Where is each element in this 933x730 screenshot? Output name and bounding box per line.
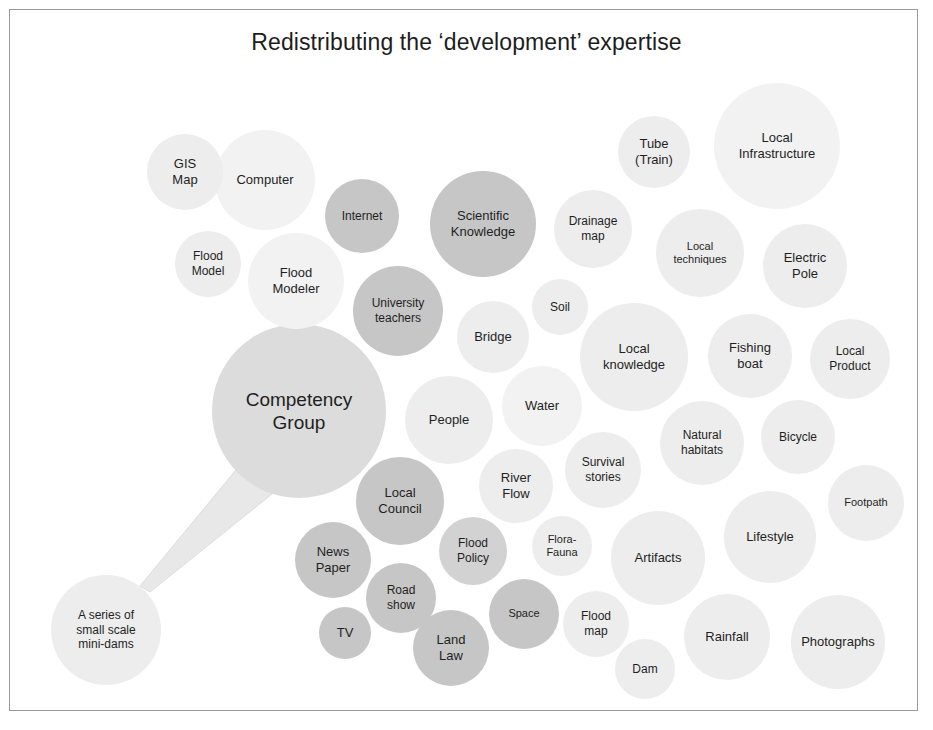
bubble-computer[interactable]: Computer: [215, 130, 315, 230]
bubble-dam[interactable]: Dam: [615, 639, 675, 699]
bubble-label: Natural habitats: [662, 428, 742, 457]
bubble-label: Local Council: [358, 485, 442, 517]
bubble-local-knowledge[interactable]: Local knowledge: [580, 303, 688, 411]
bubble-label: Fishing boat: [710, 340, 790, 372]
bubble-scientific-knowledge[interactable]: Scientific Knowledge: [430, 171, 536, 277]
bubble-natural-habitats[interactable]: Natural habitats: [660, 401, 744, 485]
bubble-label: Dam: [617, 662, 673, 677]
bubble-electric-pole[interactable]: Electric Pole: [763, 224, 847, 308]
bubble-flood-map[interactable]: Flood map: [563, 591, 629, 657]
bubble-local-infrastructure[interactable]: Local Infrastructure: [714, 83, 840, 209]
bubble-label: People: [407, 412, 491, 428]
bubble-lifestyle[interactable]: Lifestyle: [724, 491, 816, 583]
bubble-label: Local techniques: [658, 240, 742, 267]
bubble-label: Rainfall: [686, 629, 768, 645]
bubble-space[interactable]: Space: [489, 579, 559, 649]
bubble-label: River Flow: [481, 470, 551, 502]
bubble-people[interactable]: People: [405, 376, 493, 464]
bubble-label: Road show: [368, 583, 434, 612]
bubble-label: Local Product: [812, 344, 888, 373]
bubble-fishing-boat[interactable]: Fishing boat: [708, 314, 792, 398]
bubble-label: Artifacts: [613, 550, 703, 566]
bubble-label: Tube (Train): [620, 136, 688, 168]
bubble-label: Local knowledge: [582, 341, 686, 373]
bubble-label: Bicycle: [763, 430, 833, 445]
bubble-news-paper[interactable]: News Paper: [295, 522, 371, 598]
diagram-canvas: Redistributing the ‘development’ experti…: [0, 0, 933, 730]
bubble-label: Competency Group: [214, 388, 384, 434]
bubble-label: University teachers: [355, 296, 441, 325]
bubble-label: Lifestyle: [726, 529, 814, 545]
bubble-label: News Paper: [297, 544, 369, 576]
bubble-a-series-of-small-scale-mini-dams[interactable]: A series of small scale mini-dams: [51, 575, 161, 685]
bubble-label: GIS Map: [149, 156, 221, 188]
bubble-bridge[interactable]: Bridge: [457, 301, 529, 373]
bubble-label: Bridge: [459, 329, 527, 345]
bubble-label: Flood Policy: [441, 536, 505, 565]
bubble-label: A series of small scale mini-dams: [53, 608, 159, 652]
bubble-label: Flood Modeler: [250, 265, 342, 297]
bubble-rainfall[interactable]: Rainfall: [684, 594, 770, 680]
bubble-label: Local Infrastructure: [716, 130, 838, 162]
bubble-label: Photographs: [793, 634, 883, 650]
bubble-label: Water: [504, 398, 580, 414]
bubble-label: Soil: [534, 300, 586, 315]
bubble-label: Flood map: [565, 609, 627, 638]
bubble-label: Space: [491, 607, 557, 620]
bubble-flood-model[interactable]: Flood Model: [175, 231, 241, 297]
bubble-label: Survival stories: [567, 455, 639, 484]
bubble-label: Flora- Fauna: [534, 533, 590, 560]
bubble-label: Computer: [217, 172, 313, 188]
bubble-internet[interactable]: Internet: [325, 179, 399, 253]
bubble-footpath[interactable]: Footpath: [828, 465, 904, 541]
bubble-tube-train[interactable]: Tube (Train): [618, 116, 690, 188]
bubble-competency-group[interactable]: Competency Group: [212, 324, 386, 498]
bubble-survival-stories[interactable]: Survival stories: [565, 432, 641, 508]
bubble-label: Scientific Knowledge: [432, 208, 534, 240]
bubble-label: TV: [321, 625, 369, 641]
bubble-river-flow[interactable]: River Flow: [479, 449, 553, 523]
bubble-flora-fauna[interactable]: Flora- Fauna: [532, 516, 592, 576]
bubble-local-product[interactable]: Local Product: [810, 319, 890, 399]
bubble-label: Land Law: [415, 632, 487, 664]
bubble-tv[interactable]: TV: [319, 607, 371, 659]
bubble-label: Drainage map: [556, 214, 630, 243]
bubble-local-council[interactable]: Local Council: [356, 457, 444, 545]
bubble-label: Electric Pole: [765, 250, 845, 282]
bubble-label: Internet: [327, 209, 397, 224]
bubble-gis-map[interactable]: GIS Map: [147, 134, 223, 210]
bubble-flood-policy[interactable]: Flood Policy: [439, 517, 507, 585]
bubble-soil[interactable]: Soil: [532, 279, 588, 335]
bubble-university-teachers[interactable]: University teachers: [353, 266, 443, 356]
bubble-local-techniques[interactable]: Local techniques: [656, 209, 744, 297]
bubble-drainage-map[interactable]: Drainage map: [554, 190, 632, 268]
bubble-flood-modeler[interactable]: Flood Modeler: [248, 233, 344, 329]
bubble-label: Footpath: [830, 496, 902, 509]
bubble-photographs[interactable]: Photographs: [791, 595, 885, 689]
bubble-layer: Competency GroupLocal InfrastructureA se…: [0, 0, 933, 730]
bubble-artifacts[interactable]: Artifacts: [611, 511, 705, 605]
bubble-bicycle[interactable]: Bicycle: [761, 400, 835, 474]
bubble-label: Flood Model: [177, 249, 239, 278]
bubble-road-show[interactable]: Road show: [366, 563, 436, 633]
bubble-water[interactable]: Water: [502, 366, 582, 446]
